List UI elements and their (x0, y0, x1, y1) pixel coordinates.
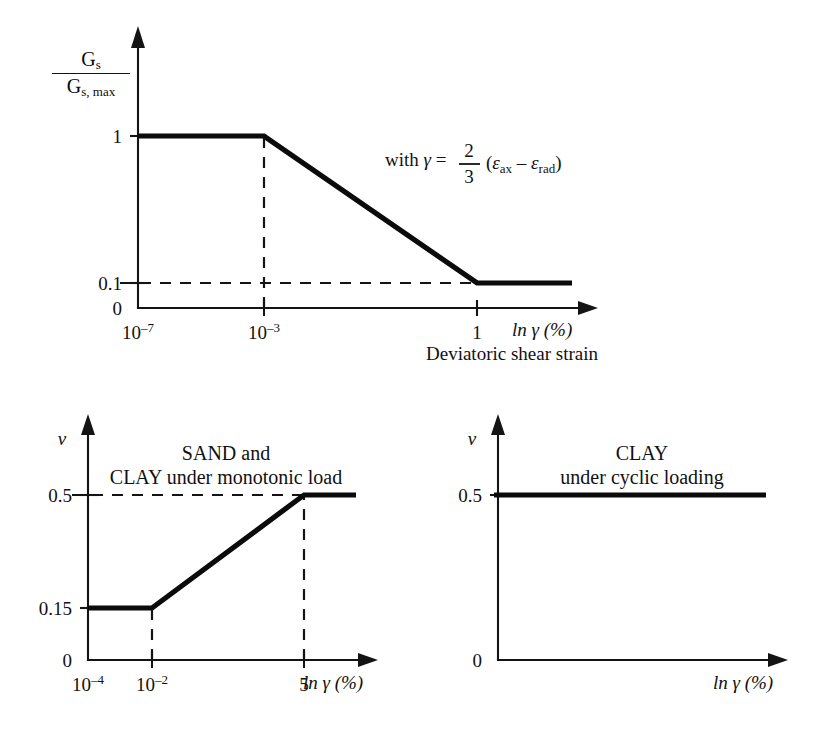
annot-minus: – (512, 152, 531, 173)
annot-prefix: with (385, 149, 424, 170)
y-ticklabel-0: 0 (63, 650, 73, 671)
y-axis-denominator-subscript: s, max (81, 84, 115, 99)
y-axis-fraction-denominator: Gs, max (52, 74, 130, 99)
chart-poisson-ratio-cyclic: CLAY under cyclic loading ν 0.5 0 ln γ (… (410, 405, 830, 705)
x-ticklabel-1e-3-exp: –3 (266, 320, 280, 335)
x-ticklabel-1e-4-base: 10 (72, 674, 91, 695)
chart-title-line2: under cyclic loading (560, 466, 723, 489)
y-axis-numerator-subscript: s (96, 57, 101, 72)
curve-gs-ratio (138, 136, 572, 283)
x-axis-title: ln γ (%) (713, 672, 773, 694)
x-ticklabel-1e-3-base: 10 (248, 322, 267, 343)
y-axis-arrowhead (131, 26, 145, 48)
annot-fraction-denominator: 3 (464, 166, 474, 187)
x-axis-arrowhead (768, 653, 788, 667)
x-ticklabel-1e-4-exp: –4 (90, 672, 105, 687)
figure-root: 1 0.1 0 10–7 10–3 1 ln γ (%) Deviatoric … (0, 0, 830, 739)
y-axis-fraction-numerator: Gs (52, 48, 130, 74)
x-ticklabel-1e-7-base: 10 (122, 322, 141, 343)
x-ticklabel-1e-7: 10–7 (122, 320, 155, 343)
y-axis-denominator-main: G (67, 75, 81, 97)
x-ticklabel-1e-4: 10–4 (72, 672, 105, 695)
y-ticklabel-0p15: 0.15 (39, 598, 72, 619)
x-axis-title: ln γ (%) (512, 319, 572, 341)
x-ticklabel-1: 1 (472, 322, 482, 343)
x-ticklabel-1e-7-exp: –7 (140, 320, 155, 335)
annotation-gamma-definition: with γ = 2 3 (εax – εrad) (385, 140, 562, 187)
y-axis-title: ν (468, 428, 477, 449)
x-axis-subtitle: Deviatoric shear strain (426, 343, 598, 364)
x-axis-arrowhead (358, 653, 378, 667)
annot-fraction-numerator: 2 (464, 140, 474, 161)
y-ticklabel-0: 0 (473, 650, 483, 671)
annot-eps-rad-sub: rad (539, 161, 556, 176)
svg-text:10–7: 10–7 (122, 320, 155, 343)
y-axis-arrowhead (81, 414, 95, 435)
x-axis-arrowhead (578, 301, 598, 315)
y-axis-arrowhead (491, 414, 505, 435)
y-ticklabel-0p1: 0.1 (98, 273, 122, 294)
curve-poisson-monotonic (88, 495, 356, 608)
x-ticklabel-1e-3: 10–3 (248, 320, 280, 343)
annot-eps-ax-sub: ax (500, 161, 513, 176)
y-ticklabel-0p5: 0.5 (48, 485, 72, 506)
svg-text:10–4: 10–4 (72, 672, 105, 695)
y-ticklabel-0: 0 (113, 298, 123, 319)
annot-paren-close: ) (555, 152, 561, 174)
chart-poisson-ratio-monotonic: SAND and CLAY under monotonic load ν 0.5… (0, 405, 420, 705)
x-ticklabel-1e-2: 10–2 (136, 672, 168, 695)
svg-text:10–2: 10–2 (136, 672, 168, 695)
y-ticklabel-0p5: 0.5 (458, 485, 482, 506)
y-axis-title: ν (58, 428, 67, 449)
y-axis-fraction-label: Gs Gs, max (52, 48, 130, 100)
y-ticklabel-1: 1 (113, 126, 123, 147)
svg-text:(εax – εrad): (εax – εrad) (486, 152, 562, 176)
x-ticklabel-1e-2-base: 10 (136, 674, 155, 695)
chart-title-line2: CLAY under monotonic load (110, 466, 342, 488)
svg-text:10–3: 10–3 (248, 320, 280, 343)
annot-equals: = (431, 149, 446, 170)
x-axis-title: ln γ (%) (303, 672, 363, 694)
chart-title-line1: SAND and (182, 442, 270, 464)
y-axis-numerator-main: G (81, 48, 95, 70)
svg-text:with γ =: with γ = (385, 149, 447, 170)
x-ticklabel-1e-2-exp: –2 (154, 672, 168, 687)
chart-title-line1: CLAY (616, 442, 669, 464)
